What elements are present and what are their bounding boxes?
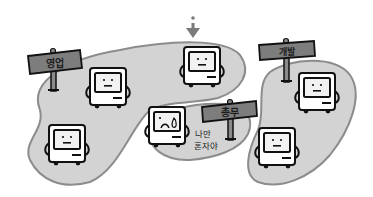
down-arrow-icon <box>186 16 200 38</box>
team-groups-illustration: 영업 개발 총무 나만 혼자야 <box>0 0 373 197</box>
sign-general-affairs-label: 총무 <box>221 106 239 118</box>
computer-character-sad <box>145 107 189 147</box>
lonely-caption-line2: 혼자야 <box>194 141 218 151</box>
computer-character-sales-2 <box>45 125 89 165</box>
sign-sales-label: 영업 <box>46 57 64 69</box>
sign-development-label: 개발 <box>279 46 296 57</box>
computer-character-development-2 <box>255 128 299 168</box>
lonely-caption-line1: 나만 <box>195 129 211 139</box>
computer-character-sales-1 <box>86 68 130 108</box>
computer-character-development-1 <box>295 73 339 113</box>
computer-character-pointed <box>180 47 224 87</box>
